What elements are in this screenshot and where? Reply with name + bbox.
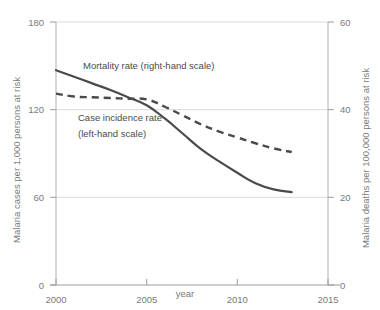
xtick-label-2015: 2015 (317, 294, 338, 305)
y-axis-left-ticks: 180 120 60 0 (28, 17, 56, 291)
xtick-label-2005: 2005 (136, 294, 157, 305)
y-axis-right-title: Malaria deaths per 100,000 persons at ri… (360, 68, 371, 248)
ytick-label-right-0: 0 (340, 280, 345, 291)
incidence-annotation-line1: Case incidence rate (78, 112, 162, 123)
ytick-label-left-180: 180 (28, 17, 44, 28)
malaria-chart: 180 120 60 0 60 40 20 0 2000 2005 2010 2… (0, 0, 380, 310)
y-axis-left-title: Malaria cases per 1,000 persons at risk (11, 77, 22, 243)
ytick-label-left-60: 60 (33, 192, 44, 203)
ytick-label-right-40: 40 (340, 104, 351, 115)
xtick-label-2000: 2000 (45, 294, 66, 305)
mortality-annotation: Mortality rate (right-hand scale) (83, 60, 214, 71)
x-axis-ticks: 2000 2005 2010 2015 year (45, 279, 338, 305)
ytick-label-left-0: 0 (39, 280, 44, 291)
ytick-label-right-20: 20 (340, 192, 351, 203)
ytick-label-right-60: 60 (340, 17, 351, 28)
y-axis-right-ticks: 60 40 20 0 (328, 17, 351, 291)
incidence-annotation-line2: (left-hand scale) (78, 128, 146, 139)
ytick-label-left-120: 120 (28, 104, 44, 115)
chart-svg: 180 120 60 0 60 40 20 0 2000 2005 2010 2… (0, 0, 380, 310)
gridlines (56, 22, 328, 197)
xtick-label-2010: 2010 (227, 294, 248, 305)
x-axis-title: year (176, 288, 194, 299)
